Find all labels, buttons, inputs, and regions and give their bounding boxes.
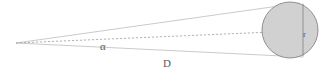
angular-diameter-figure: α D r xyxy=(0,0,330,75)
body-circle xyxy=(262,2,318,58)
lower-tangent-line xyxy=(16,43,303,57)
radius-label-r: r xyxy=(303,30,306,39)
distance-label-d: D xyxy=(163,58,171,69)
angle-label-alpha: α xyxy=(100,41,106,52)
